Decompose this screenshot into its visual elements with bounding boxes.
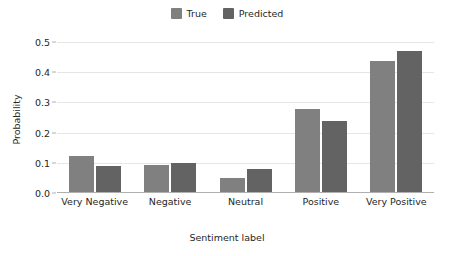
bar-true-positive (295, 109, 320, 193)
y-tick-mark (52, 72, 56, 73)
y-tick-mark (52, 42, 56, 43)
bar-true-negative (144, 165, 169, 193)
x-tick-label-negative: Negative (149, 196, 192, 207)
x-tick-label-very-positive: Very Positive (366, 196, 427, 207)
bar-predicted-positive (322, 121, 347, 193)
bar-true-very-positive (370, 61, 395, 193)
legend-entry-predicted: Predicted (223, 8, 284, 19)
x-tick-label-neutral: Neutral (228, 196, 263, 207)
bar-predicted-very-negative (96, 166, 121, 193)
y-axis-title-text: Probability (11, 94, 22, 144)
x-tick-label-positive: Positive (303, 196, 340, 207)
legend-swatch-true (171, 8, 182, 19)
chart-legend: True Predicted (0, 8, 454, 19)
legend-label-predicted: Predicted (239, 9, 284, 19)
y-tick-mark (52, 162, 56, 163)
x-axis-title: Sentiment label (0, 232, 454, 243)
y-tick-mark (52, 132, 56, 133)
plot-area: 0.00.10.20.30.40.5 (57, 42, 434, 193)
y-tick-mark (52, 102, 56, 103)
legend-swatch-predicted (223, 8, 234, 19)
x-axis-title-text: Sentiment label (189, 232, 264, 243)
legend-entry-true: True (171, 8, 207, 19)
bar-predicted-negative (171, 163, 196, 193)
bar-chart-figure: True Predicted Probability 0.00.10.20.30… (0, 0, 454, 256)
bar-series-container (57, 42, 434, 193)
y-axis-title: Probability (8, 0, 24, 256)
bar-true-neutral (220, 178, 245, 193)
x-tick-labels: Very NegativeNegativeNeutralPositiveVery… (57, 196, 434, 212)
y-tick-mark (52, 193, 56, 194)
bar-predicted-neutral (247, 169, 272, 193)
bar-true-very-negative (69, 156, 94, 193)
bar-predicted-very-positive (397, 51, 422, 193)
legend-label-true: True (187, 9, 207, 19)
x-tick-label-very-negative: Very Negative (61, 196, 128, 207)
x-axis-line (57, 192, 434, 193)
